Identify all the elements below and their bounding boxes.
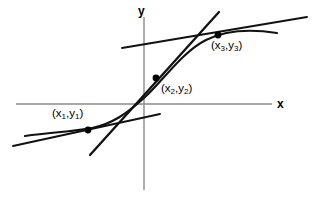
point-label-3-suffix: ) — [238, 39, 242, 51]
data-point-dot-2 — [153, 75, 160, 82]
point-label-1-sub-y: 1 — [75, 112, 79, 121]
point-label-1-prefix: (x — [52, 107, 62, 119]
point-label-2-suffix: ) — [188, 82, 192, 94]
point-label-1: (x1,y1) — [52, 108, 83, 120]
point-label-1-suffix: ) — [79, 107, 83, 119]
point-label-1-sub-x: 1 — [62, 112, 66, 121]
point-label-3: (x3,y3) — [211, 40, 242, 52]
point-label-3-sub-y: 3 — [234, 44, 238, 53]
data-point-dot-3 — [215, 32, 222, 39]
point-label-2-prefix: (x — [161, 82, 171, 94]
point-label-2-mid: ,y — [175, 82, 184, 94]
point-label-3-mid: ,y — [225, 39, 234, 51]
point-label-2-sub-x: 2 — [171, 87, 175, 96]
point-label-2-sub-y: 2 — [184, 87, 188, 96]
plot-svg — [0, 0, 317, 198]
figure-canvas: y x (x1,y1) (x2,y2) (x3,y3) — [0, 0, 317, 198]
point-label-3-sub-x: 3 — [221, 44, 225, 53]
data-point-dot-1 — [85, 127, 92, 134]
point-label-1-mid: ,y — [66, 107, 75, 119]
x-axis-label: x — [277, 98, 284, 110]
point-label-2: (x2,y2) — [161, 83, 192, 95]
steep-line-through-point-2 — [90, 12, 219, 155]
point-label-3-prefix: (x — [211, 39, 221, 51]
y-axis-label: y — [138, 5, 145, 17]
